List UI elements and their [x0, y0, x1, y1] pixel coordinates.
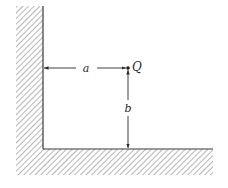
label-a: a	[83, 62, 90, 75]
dimension-a: a	[44, 62, 126, 75]
label-b: b	[124, 102, 131, 115]
charge-dot-icon	[126, 66, 130, 70]
bottom-wall	[16, 149, 213, 175]
diagram-canvas: a b Q	[0, 0, 228, 188]
left-wall	[16, 6, 43, 149]
point-charge-q: Q	[126, 60, 142, 74]
label-q: Q	[132, 60, 142, 74]
dimension-b: b	[124, 70, 131, 148]
